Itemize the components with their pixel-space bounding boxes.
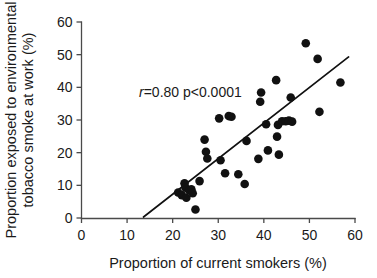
data-point bbox=[262, 120, 271, 129]
data-point bbox=[188, 189, 197, 198]
y-tick-label: 30 bbox=[57, 112, 73, 128]
x-tick-label: 50 bbox=[302, 227, 318, 243]
y-tick-label: 50 bbox=[57, 47, 73, 63]
x-tick-label: 30 bbox=[210, 227, 226, 243]
x-tick-label: 10 bbox=[119, 227, 135, 243]
data-point bbox=[336, 78, 345, 87]
data-point bbox=[242, 137, 251, 146]
x-tick-label: 60 bbox=[347, 227, 363, 243]
scatter-plot-figure: 0102030405060 0102030405060 r=0.80 p<0.0… bbox=[0, 0, 377, 278]
data-point bbox=[275, 150, 284, 159]
data-point bbox=[191, 205, 200, 214]
data-point bbox=[315, 108, 324, 117]
data-point bbox=[256, 97, 265, 106]
data-point bbox=[288, 117, 297, 126]
data-point bbox=[286, 93, 295, 102]
x-axis-title: Proportion of current smokers (%) bbox=[109, 255, 327, 271]
y-tick-label: 60 bbox=[57, 14, 73, 30]
data-point bbox=[257, 88, 266, 97]
correlation-value: =0.80 p<0.0001 bbox=[144, 84, 242, 100]
y-tick-label: 40 bbox=[57, 79, 73, 95]
y-axis-ticks: 0102030405060 bbox=[57, 14, 82, 226]
x-tick-label: 20 bbox=[165, 227, 181, 243]
data-point bbox=[264, 146, 273, 155]
y-axis-title-line-1: Proportion exposed to environmental bbox=[3, 2, 19, 239]
data-point bbox=[200, 135, 209, 144]
y-axis-title-line-2: tobacco smoke at work (%) bbox=[20, 33, 36, 208]
chart-canvas: 0102030405060 0102030405060 r=0.80 p<0.0… bbox=[0, 0, 377, 278]
data-point bbox=[313, 55, 322, 64]
correlation-annotation: r=0.80 p<0.0001 bbox=[139, 84, 242, 100]
y-tick-label: 0 bbox=[65, 210, 73, 226]
data-point bbox=[301, 39, 310, 48]
data-point bbox=[227, 112, 236, 121]
x-tick-label: 40 bbox=[256, 227, 272, 243]
data-point bbox=[272, 76, 281, 85]
data-point bbox=[234, 170, 243, 179]
y-tick-label: 20 bbox=[57, 145, 73, 161]
data-point bbox=[195, 177, 204, 186]
data-point bbox=[240, 180, 249, 189]
x-tick-label: 0 bbox=[78, 227, 86, 243]
data-point bbox=[221, 169, 230, 178]
data-point bbox=[203, 154, 212, 163]
data-point bbox=[215, 114, 224, 123]
data-point bbox=[254, 155, 263, 164]
y-tick-label: 10 bbox=[57, 177, 73, 193]
data-point bbox=[273, 132, 282, 141]
data-point bbox=[216, 156, 225, 165]
x-axis-ticks: 0102030405060 bbox=[78, 218, 363, 243]
